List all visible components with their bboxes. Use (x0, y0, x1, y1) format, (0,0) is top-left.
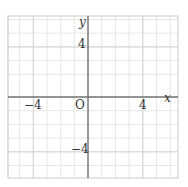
x-tick-label-4: 4 (139, 99, 147, 111)
y-axis-label: y (79, 16, 86, 28)
origin-label: O (75, 99, 85, 111)
y-tick-label-negative-4: −4 (71, 143, 89, 155)
coordinate-plane-figure: y x 4 −4 −4 4 O (0, 0, 188, 187)
x-tick-label-negative-4: −4 (24, 99, 42, 111)
y-tick-label-4: 4 (78, 38, 86, 50)
coordinate-grid (0, 0, 188, 187)
x-axis-label: x (164, 92, 171, 104)
